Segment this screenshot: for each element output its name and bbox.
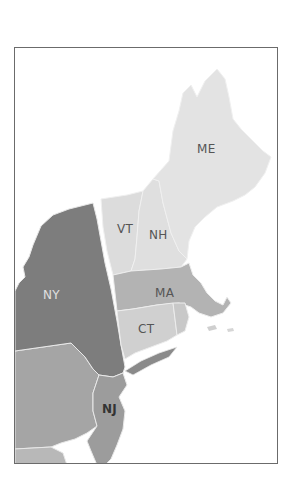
label-vt: VT	[117, 222, 133, 236]
label-nh: NH	[149, 228, 168, 242]
island-nantucket	[227, 328, 234, 332]
label-ct: CT	[138, 322, 154, 336]
label-ny: NY	[43, 288, 60, 302]
map-frame: ME VT NH NY MA CT NJ	[14, 47, 278, 464]
label-nj: NJ	[102, 402, 117, 416]
label-ma: MA	[155, 286, 174, 300]
northeast-map	[15, 48, 278, 464]
state-md[interactable]	[15, 447, 67, 464]
island-marthas-vineyard	[207, 325, 217, 331]
label-me: ME	[197, 142, 216, 156]
state-me[interactable]	[153, 69, 271, 259]
